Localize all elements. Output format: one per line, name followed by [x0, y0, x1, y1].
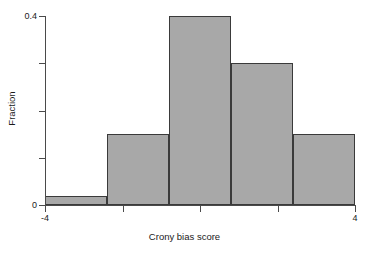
histogram-bar: [231, 63, 293, 205]
x-axis-tick: [123, 206, 124, 212]
y-axis-line: [45, 16, 46, 205]
x-axis-tick: [200, 206, 201, 212]
y-axis-tick-label: 0.4: [24, 12, 37, 21]
histogram-bar: [45, 196, 107, 205]
histogram-bar: [169, 16, 231, 205]
y-axis-tick: [39, 16, 45, 17]
histogram-figure: -4400.4 Crony bias score Fraction: [0, 0, 369, 259]
histogram-bar: [293, 134, 355, 205]
plot-area: [45, 16, 355, 205]
y-axis-tick: [39, 111, 45, 112]
y-axis-tick: [39, 205, 45, 206]
x-axis-tick-label: -4: [25, 214, 65, 223]
y-axis-title: Fraction: [6, 79, 17, 139]
y-axis-tick: [39, 158, 45, 159]
x-axis-title: Crony bias score: [0, 231, 369, 242]
x-axis-tick: [45, 206, 46, 212]
y-axis-tick-label: 0: [32, 201, 37, 210]
x-axis-tick: [355, 206, 356, 212]
x-axis-tick-label: 4: [335, 214, 369, 223]
histogram-bar: [107, 134, 169, 205]
x-axis-tick: [278, 206, 279, 212]
y-axis-tick: [39, 63, 45, 64]
